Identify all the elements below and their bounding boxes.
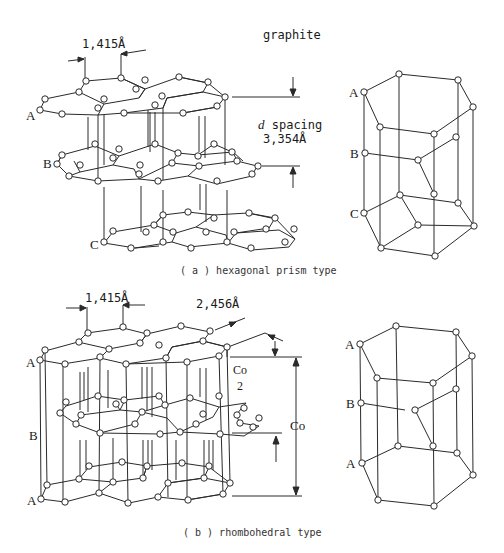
layer-label-b3: A bbox=[27, 494, 36, 507]
lattice-constant-label: 2,456Å bbox=[196, 298, 239, 310]
half-c-denominator: 2 bbox=[237, 380, 243, 392]
graphite-title: graphite bbox=[263, 29, 321, 41]
layer-label-a1: A bbox=[26, 109, 35, 122]
atoms-a bbox=[37, 74, 297, 251]
prism-label-b3: A bbox=[346, 457, 355, 470]
bond-length-dimension-b bbox=[66, 302, 145, 333]
half-c-numerator: Co bbox=[233, 364, 247, 376]
lattice-constant-dimension bbox=[215, 318, 283, 347]
prism-label-a2: B bbox=[350, 147, 359, 160]
layer-a-top-bonds bbox=[40, 326, 227, 364]
c-axis-label: Co bbox=[290, 419, 305, 432]
prism-label-a3: C bbox=[350, 207, 359, 220]
caption-b: ( b ) rhombohedral type bbox=[183, 527, 321, 538]
d-spacing-value: 3,354Å bbox=[263, 133, 306, 145]
prism-b-atoms bbox=[357, 323, 476, 509]
spacing-word: spacing bbox=[265, 118, 323, 132]
bond-length-label-a: 1,415Å bbox=[82, 38, 125, 50]
prism-a-atoms bbox=[361, 71, 477, 259]
prism-label-b2: B bbox=[346, 397, 355, 410]
prism-label-a1: A bbox=[349, 86, 358, 99]
bond-length-dimension-a bbox=[68, 50, 146, 80]
layer-label-a3: C bbox=[90, 238, 99, 251]
prism-label-b1: A bbox=[345, 338, 354, 351]
bond-length-label-b: 1,415Å bbox=[85, 292, 128, 304]
layer-label-b2: B bbox=[29, 429, 38, 442]
caption-a: ( a ) hexagonal prism type bbox=[180, 265, 337, 276]
layer-label-a2: B bbox=[43, 157, 52, 170]
d-spacing-label: d spacing bbox=[258, 118, 322, 131]
prism-b bbox=[360, 326, 473, 506]
graphite-structure-diagram bbox=[0, 0, 504, 553]
layer-a-bonds bbox=[40, 77, 225, 115]
layer-a-bottom-bonds bbox=[41, 462, 230, 503]
prism-a bbox=[364, 74, 474, 256]
layer-label-b1: A bbox=[26, 356, 35, 369]
